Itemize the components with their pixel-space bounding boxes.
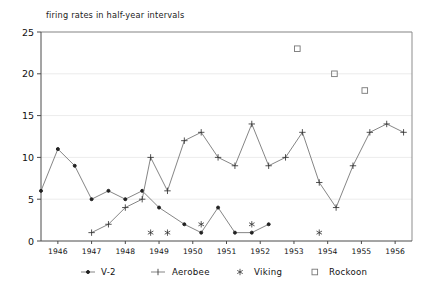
y-tick-label: 20 (22, 68, 34, 79)
legend-label-rockoon: Rockoon (329, 267, 367, 277)
legend-label-v-2: V-2 (101, 267, 116, 277)
data-point-dot (250, 231, 253, 234)
y-tick-label: 15 (22, 110, 34, 121)
x-tick-label: 1951 (217, 247, 237, 256)
data-point-dot (56, 148, 59, 151)
data-point-dot (40, 189, 43, 192)
x-tick-label: 1950 (183, 247, 203, 256)
legend-marker-dot (87, 271, 90, 274)
data-point-dot (107, 189, 110, 192)
x-tick-label: 1955 (352, 247, 372, 256)
data-point-dot (90, 198, 93, 201)
firing-rates-chart: 0510152025194619471948194919501951195219… (0, 0, 431, 291)
series-line-aerobee (92, 124, 404, 233)
x-tick-label: 1947 (82, 247, 102, 256)
legend-marker-square (312, 269, 318, 275)
chart-title: firing rates in half-year intervals (46, 10, 184, 20)
y-tick-label: 25 (22, 27, 34, 38)
legend-label-aerobee: Aerobee (172, 267, 210, 277)
x-tick-label: 1952 (250, 247, 270, 256)
y-tick-label: 10 (22, 152, 34, 163)
y-tick-label: 0 (28, 236, 34, 247)
data-point-dot (267, 223, 270, 226)
x-tick-label: 1954 (318, 247, 338, 256)
data-point-dot (124, 198, 127, 201)
data-point-dot (183, 223, 186, 226)
series-line-v-2 (41, 149, 269, 233)
chart-container: 0510152025194619471948194919501951195219… (0, 0, 431, 291)
data-point-square (295, 46, 301, 52)
data-point-dot (200, 231, 203, 234)
x-tick-label: 1949 (149, 247, 169, 256)
x-tick-label: 1946 (48, 247, 68, 256)
data-point-dot (233, 231, 236, 234)
x-tick-label: 1953 (284, 247, 304, 256)
legend-label-viking: Viking (254, 267, 282, 277)
data-point-dot (217, 206, 220, 209)
x-tick-label: 1948 (115, 247, 135, 256)
data-point-square (362, 88, 368, 94)
data-point-dot (73, 164, 76, 167)
y-tick-label: 5 (28, 194, 34, 205)
x-tick-label: 1956 (385, 247, 405, 256)
data-point-dot (158, 206, 161, 209)
